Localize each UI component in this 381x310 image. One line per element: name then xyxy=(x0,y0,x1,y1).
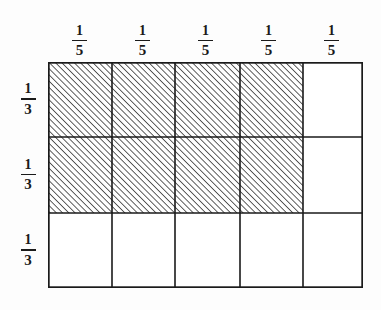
fraction-bar xyxy=(324,40,339,42)
fraction-one-fifth: 1 5 xyxy=(198,24,213,59)
fraction-numerator: 1 xyxy=(137,24,148,39)
fraction-bar xyxy=(21,98,36,100)
fraction-numerator: 1 xyxy=(263,24,274,39)
fraction-denominator: 3 xyxy=(22,101,34,117)
fraction-one-third: 1 3 xyxy=(21,82,36,117)
area-model-grid xyxy=(48,62,363,288)
fraction-denominator: 3 xyxy=(22,252,34,268)
fraction-denominator: 5 xyxy=(200,42,212,58)
fraction-one-fifth: 1 5 xyxy=(135,24,150,59)
row-label-2: 1 3 xyxy=(8,137,48,212)
fraction-bar xyxy=(21,174,36,176)
fraction-bar xyxy=(261,40,276,42)
fraction-bar xyxy=(135,40,150,42)
fraction-numerator: 1 xyxy=(23,82,34,97)
column-label-4: 1 5 xyxy=(237,22,300,60)
row-labels: 1 3 1 3 1 3 xyxy=(8,62,48,288)
column-label-1: 1 5 xyxy=(48,22,111,60)
fraction-one-fifth: 1 5 xyxy=(324,24,339,59)
fraction-bar xyxy=(198,40,213,42)
fraction-numerator: 1 xyxy=(200,24,211,39)
fraction-denominator: 3 xyxy=(22,176,34,192)
fraction-area-model-figure: 1 5 1 5 1 5 1 5 xyxy=(0,0,381,310)
column-label-5: 1 5 xyxy=(300,22,363,60)
fraction-denominator: 5 xyxy=(74,42,86,58)
fraction-numerator: 1 xyxy=(23,233,34,248)
fraction-one-third: 1 3 xyxy=(21,158,36,193)
fraction-numerator: 1 xyxy=(74,24,85,39)
fraction-numerator: 1 xyxy=(23,158,34,173)
fraction-one-fifth: 1 5 xyxy=(261,24,276,59)
fraction-denominator: 5 xyxy=(137,42,149,58)
column-label-3: 1 5 xyxy=(174,22,237,60)
fraction-numerator: 1 xyxy=(326,24,337,39)
row-label-3: 1 3 xyxy=(8,213,48,288)
grid-svg xyxy=(48,62,363,288)
fraction-one-third: 1 3 xyxy=(21,233,36,268)
row-label-1: 1 3 xyxy=(8,62,48,137)
fraction-denominator: 5 xyxy=(326,42,338,58)
column-labels: 1 5 1 5 1 5 1 5 xyxy=(48,22,363,60)
column-label-2: 1 5 xyxy=(111,22,174,60)
fraction-bar xyxy=(72,40,87,42)
fraction-bar xyxy=(21,249,36,251)
fraction-denominator: 5 xyxy=(263,42,275,58)
fraction-one-fifth: 1 5 xyxy=(72,24,87,59)
